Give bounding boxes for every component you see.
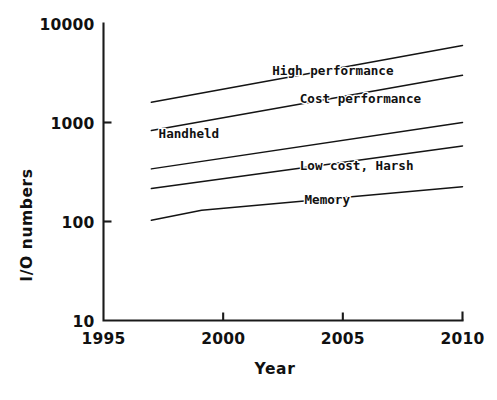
x-tick-label-2005: 2005 <box>321 330 365 348</box>
x-axis-title: Year <box>254 360 296 378</box>
y-tick-label-10000: 10000 <box>40 16 95 34</box>
y-axis-tick-labels: 10000100010010 <box>40 16 95 331</box>
series-label-cost-performance: Cost performance <box>300 91 422 106</box>
x-axis-tick-labels: 1995200020052010 <box>82 330 485 348</box>
series-label-high-performance: High performance <box>272 63 394 78</box>
y-tick-label-100: 100 <box>62 214 95 232</box>
y-tick-label-1000: 1000 <box>51 115 95 133</box>
x-tick-label-2000: 2000 <box>201 330 245 348</box>
x-tick-label-1995: 1995 <box>82 330 126 348</box>
x-tick-label-2010: 2010 <box>441 330 485 348</box>
series-label-handheld: Handheld <box>159 126 220 141</box>
y-axis-ticks <box>104 123 112 222</box>
y-tick-label-10: 10 <box>73 313 95 331</box>
chart-figure: 10000100010010 1995200020052010 High per… <box>0 0 497 400</box>
series-label-low-cost-harsh: Low cost, Harsh <box>300 158 414 173</box>
series-label-memory: Memory <box>305 192 351 207</box>
x-axis-ticks <box>223 312 462 321</box>
y-axis-title: I/O numbers <box>18 168 36 281</box>
line-chart-canvas: 10000100010010 1995200020052010 High per… <box>0 0 497 400</box>
